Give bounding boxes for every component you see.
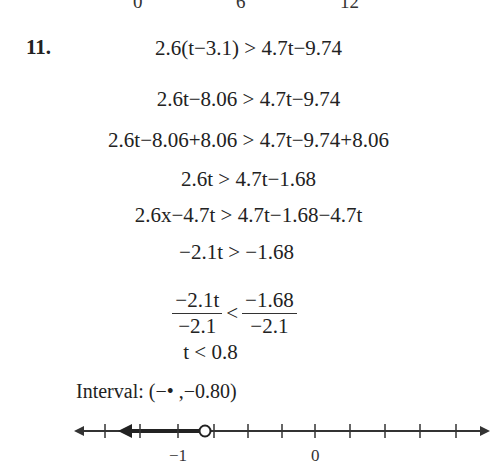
left-fraction: −2.1t −2.1 (172, 288, 222, 339)
top-axis-label-0: 0 (133, 0, 143, 13)
top-axis-label-6: 6 (236, 0, 246, 13)
shaded-arrow-icon (118, 424, 132, 438)
number-line-label-0: 0 (311, 446, 320, 466)
number-line (0, 415, 497, 445)
right-fraction: −1.68 −2.1 (242, 288, 297, 339)
interval-line: Interval: (−• ,−0.80) (76, 380, 237, 403)
top-axis-label-12: 12 (340, 0, 359, 13)
equation-step-3: 2.6t−8.06+8.06 > 4.7t−9.74+8.06 (0, 128, 497, 153)
fraction-step: −2.1t −2.1 < −1.68 −2.1 (0, 288, 483, 339)
equation-step-4: 2.6t > 4.7t−1.68 (0, 167, 497, 192)
equation-step-2: 2.6t−8.06 > 4.7t−9.74 (0, 87, 497, 112)
equation-step-5: 2.6x−4.7t > 4.7t−1.68−4.7t (0, 203, 497, 228)
open-circle-icon (200, 426, 211, 437)
right-arrow-icon (480, 426, 490, 436)
equation-step-1: 2.6(t−3.1) > 4.7t−9.74 (0, 36, 497, 61)
result: t < 0.8 (0, 340, 459, 365)
left-arrow-icon (74, 426, 84, 436)
number-line-label-neg1: −1 (169, 446, 187, 466)
interval-value: (−• ,−0.80) (149, 380, 237, 402)
interval-label: Interval: (76, 380, 144, 402)
equation-step-6: −2.1t > −1.68 (0, 240, 485, 265)
